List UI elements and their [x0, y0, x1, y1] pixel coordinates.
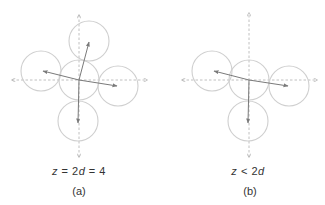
circle-left [192, 51, 232, 91]
circle-top [69, 21, 109, 61]
vector-to-bottom [248, 80, 249, 123]
circle-left [21, 51, 61, 91]
panel-a [12, 15, 147, 157]
circle-right [269, 66, 309, 106]
caption-a: (a) [72, 185, 85, 197]
eq-a-op1: = [58, 165, 72, 177]
circle-right [98, 66, 138, 106]
eq-a-value: 4 [99, 165, 106, 177]
caption-b: (b) [243, 185, 256, 197]
diagram-canvas [0, 0, 325, 205]
panel-b [182, 13, 317, 157]
eq-b-d: d [258, 165, 265, 177]
equation-b: z < 2d [231, 165, 264, 177]
equation-a: z = 2d = 4 [52, 165, 106, 177]
eq-a-coef: 2 [72, 165, 79, 177]
eq-b-op: < [237, 165, 251, 177]
eq-b-coef: 2 [251, 165, 258, 177]
vector-to-bottom [78, 80, 79, 123]
eq-a-op2: = [85, 165, 99, 177]
